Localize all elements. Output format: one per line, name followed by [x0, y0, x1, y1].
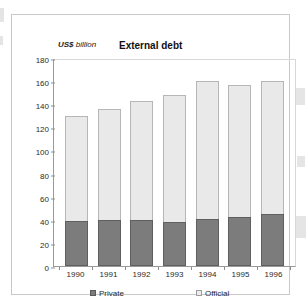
bar-segment-official[interactable]	[130, 101, 153, 220]
x-axis-label: 1991	[92, 270, 125, 284]
bar-slot	[158, 60, 191, 266]
figure-frame: US$ billion External debt 02040608010012…	[11, 14, 290, 295]
bar-slot	[125, 60, 158, 266]
chart-title: External debt	[119, 40, 182, 51]
bar-segment-official[interactable]	[261, 81, 284, 214]
bar-segment-official[interactable]	[98, 109, 121, 220]
stacked-bar[interactable]	[130, 101, 153, 266]
bar-slot	[224, 60, 257, 266]
scan-artifact	[296, 88, 305, 105]
stacked-bar[interactable]	[65, 116, 88, 266]
legend-item-private: Private	[90, 289, 124, 298]
y-axis-unit-label: US$ billion	[58, 40, 96, 49]
bar-slot	[256, 60, 289, 266]
y-axis-tick-mark	[51, 268, 55, 269]
bar-segment-private[interactable]	[130, 220, 153, 266]
stacked-bar[interactable]	[261, 81, 284, 266]
bar-segment-private[interactable]	[98, 220, 121, 266]
stacked-bar[interactable]	[228, 85, 251, 266]
legend-label-official: Official	[205, 289, 229, 298]
bar-slot	[60, 60, 93, 266]
legend-item-official: Official	[196, 289, 229, 298]
scan-artifact	[0, 36, 3, 45]
bar-segment-official[interactable]	[65, 116, 88, 221]
bar-segment-private[interactable]	[163, 222, 186, 266]
bar-slot	[93, 60, 126, 266]
stacked-bar[interactable]	[163, 95, 186, 266]
bar-segment-private[interactable]	[65, 221, 88, 266]
legend-label-private: Private	[99, 289, 124, 298]
stacked-bar[interactable]	[196, 81, 219, 266]
y-axis-unit-currency: US$	[58, 40, 74, 49]
legend-swatch-official-icon	[196, 290, 202, 296]
scan-artifact	[0, 8, 4, 22]
bar-slot	[191, 60, 224, 266]
scan-artifact	[296, 216, 306, 238]
legend-swatch-private-icon	[90, 290, 96, 296]
chart-legend: Private Official	[53, 287, 296, 299]
bar-group	[54, 60, 295, 266]
bar-segment-private[interactable]	[228, 217, 251, 266]
scan-artifact	[297, 156, 305, 167]
bar-segment-official[interactable]	[196, 81, 219, 219]
y-axis-unit-magnitude: billion	[76, 40, 96, 49]
x-axis-label: 1994	[191, 270, 224, 284]
bar-segment-official[interactable]	[228, 85, 251, 218]
bar-segment-private[interactable]	[261, 214, 284, 266]
plot-area: 020406080100120140160180	[53, 59, 296, 267]
x-axis-label: 1990	[59, 270, 92, 284]
stacked-bar[interactable]	[98, 109, 121, 266]
x-axis-labels: 1990199119921993199419951996	[53, 270, 296, 284]
x-axis-label: 1992	[125, 270, 158, 284]
x-axis-label: 1993	[158, 270, 191, 284]
bar-segment-private[interactable]	[196, 219, 219, 266]
bar-segment-official[interactable]	[163, 95, 186, 222]
x-axis-label: 1996	[257, 270, 290, 284]
x-axis-label: 1995	[224, 270, 257, 284]
